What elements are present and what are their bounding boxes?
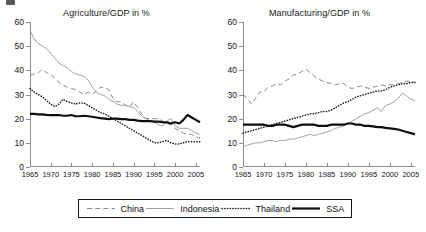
x-tick-label: 1990	[125, 171, 142, 179]
figure-root: Agriculture/GDP in % 0102030405060196519…	[0, 0, 426, 232]
x-tick-label: 2000	[381, 171, 398, 179]
x-tick	[175, 163, 176, 167]
y-tick	[239, 167, 243, 168]
series-lines-agriculture	[30, 22, 200, 167]
series-lines-manufacturing	[243, 22, 415, 167]
x-tick-label: 1980	[84, 171, 101, 179]
x-tick-label: 2005	[188, 171, 205, 179]
legend-item-ssa[interactable]: SSA	[291, 204, 344, 214]
chart-legend: ChinaIndonesiaThailandSSA	[78, 199, 352, 218]
y-tick-label: 50	[15, 42, 24, 51]
series-line-ssa	[30, 114, 200, 124]
series-line-thailand	[30, 88, 200, 144]
x-tick	[306, 163, 307, 167]
x-tick-label: 2000	[167, 171, 184, 179]
y-tick	[26, 22, 30, 23]
x-tick	[411, 163, 412, 167]
y-tick-label: 20	[15, 114, 24, 123]
legend-swatch-china-icon	[86, 204, 116, 213]
x-tick-label: 1985	[105, 171, 122, 179]
x-tick	[264, 163, 265, 167]
plot-area-agriculture: 0102030405060196519701975198019851990199…	[30, 22, 200, 167]
x-tick	[327, 163, 328, 167]
x-tick	[196, 163, 197, 167]
y-tick-label: 40	[228, 66, 237, 75]
x-tick	[154, 163, 155, 167]
x-tick-label: 1965	[235, 171, 252, 179]
x-tick-label: 1995	[361, 171, 378, 179]
y-tick	[239, 143, 243, 144]
y-tick	[239, 95, 243, 96]
y-tick-label: 40	[15, 66, 24, 75]
y-tick-label: 10	[15, 139, 24, 148]
y-tick	[26, 70, 30, 71]
legend-swatch-ssa-icon	[291, 204, 321, 213]
panel-manufacturing: Manufacturing/GDP in % 01020304050601965…	[213, 8, 426, 190]
x-tick	[113, 163, 114, 167]
x-tick-label: 1965	[22, 171, 39, 179]
x-tick	[30, 163, 31, 167]
legend-label: China	[121, 204, 145, 214]
x-tick-label: 1980	[298, 171, 315, 179]
y-tick-label: 50	[228, 42, 237, 51]
x-tick-label: 1970	[256, 171, 273, 179]
y-tick-label: 20	[228, 114, 237, 123]
x-tick	[348, 163, 349, 167]
plot-area-manufacturing: 0102030405060196519701975198019851990199…	[243, 22, 415, 167]
y-tick	[239, 22, 243, 23]
y-tick-label: 60	[15, 18, 24, 27]
series-line-china	[243, 69, 415, 104]
x-tick-label: 1975	[277, 171, 294, 179]
series-line-china	[30, 69, 200, 138]
x-tick-label: 1970	[42, 171, 59, 179]
x-tick	[285, 163, 286, 167]
y-tick	[26, 95, 30, 96]
y-tick-label: 30	[15, 90, 24, 99]
x-tick	[92, 163, 93, 167]
series-line-ssa	[243, 124, 415, 135]
x-tick	[390, 163, 391, 167]
x-tick-label: 2005	[402, 171, 419, 179]
y-tick	[26, 167, 30, 168]
y-tick	[26, 119, 30, 120]
panel-title-agriculture: Agriculture/GDP in %	[0, 8, 213, 18]
y-tick-label: 30	[228, 90, 237, 99]
x-tick	[243, 163, 244, 167]
y-tick	[239, 70, 243, 71]
x-tick-label: 1990	[340, 171, 357, 179]
panel-title-manufacturing: Manufacturing/GDP in %	[213, 8, 426, 18]
panel-agriculture: Agriculture/GDP in % 0102030405060196519…	[0, 8, 213, 190]
legend-item-china[interactable]: China	[86, 204, 145, 214]
series-line-indonesia	[243, 93, 415, 146]
caption-descender-stub	[6, 0, 15, 5]
legend-item-thailand[interactable]: Thailand	[221, 204, 291, 214]
y-tick	[26, 46, 30, 47]
x-tick-label: 1985	[319, 171, 336, 179]
y-tick	[26, 143, 30, 144]
legend-swatch-indonesia-icon	[145, 204, 175, 213]
x-tick-label: 1975	[63, 171, 80, 179]
y-tick-label: 10	[228, 139, 237, 148]
y-tick	[239, 119, 243, 120]
x-tick	[51, 163, 52, 167]
legend-label: SSA	[326, 204, 344, 214]
legend-label: Indonesia	[180, 204, 219, 214]
x-tick-label: 1995	[146, 171, 163, 179]
legend-swatch-thailand-icon	[221, 204, 251, 213]
x-tick	[369, 163, 370, 167]
legend-item-indonesia[interactable]: Indonesia	[145, 204, 219, 214]
y-tick	[239, 46, 243, 47]
legend-label: Thailand	[256, 204, 291, 214]
y-tick-label: 60	[228, 18, 237, 27]
x-tick	[134, 163, 135, 167]
x-tick	[71, 163, 72, 167]
